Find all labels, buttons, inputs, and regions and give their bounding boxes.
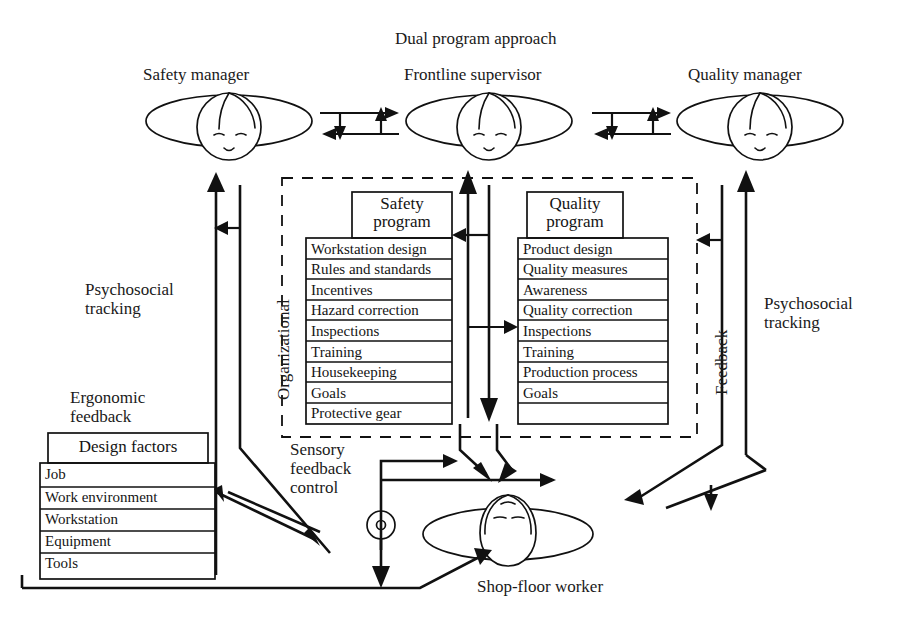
design-factors-item: Tools (42, 555, 215, 572)
label-organizational: Organizational (274, 299, 293, 400)
design-factors-item: Job (42, 466, 215, 483)
dual-program-approach-diagram: Dual program approach Safety manager Fro… (0, 0, 911, 629)
quality-program-item: Quality correction (520, 302, 668, 319)
quality-program-item: Training (520, 344, 668, 361)
safety-program-item: Housekeeping (308, 364, 452, 381)
person-frontline-supervisor (406, 93, 572, 160)
safety-program-item: Protective gear (308, 405, 452, 422)
label-feedback: Feedback (712, 330, 731, 395)
quality-program-item: Awareness (520, 282, 668, 299)
arrow-center-to-safety-program (452, 228, 489, 242)
safety-program-item: Incentives (308, 282, 452, 299)
label-sensory-feedback-control: Sensory feedback control (290, 440, 351, 497)
quality-program-item: Inspections (520, 323, 668, 340)
arrow-center-down-to-worker (480, 185, 498, 422)
safety-program-item: Workstation design (308, 241, 452, 258)
label-quality-manager: Quality manager (688, 65, 802, 84)
design-factors-header: Design factors (48, 438, 208, 456)
label-safety-manager: Safety manager (143, 65, 249, 84)
label-left-psychosocial-tracking: Psychosocial tracking (85, 280, 174, 318)
arrow-center-up-to-supervisor (459, 170, 477, 418)
label-shop-floor-worker: Shop-floor worker (477, 577, 603, 596)
design-factors-item: Work environment (42, 489, 215, 506)
page-title: Dual program approach (395, 29, 556, 48)
quality-program-item: Production process (520, 364, 668, 381)
safety-program-item: Training (308, 344, 452, 361)
safety-program-item: Hazard correction (308, 302, 452, 319)
label-right-psychosocial-tracking: Psychosocial tracking (764, 294, 853, 332)
quality-program-header: Quality program (527, 195, 623, 231)
design-factors-item: Equipment (42, 533, 215, 550)
safety-program-item: Goals (308, 385, 452, 402)
arrow-right-diagonal-lower (666, 470, 766, 511)
safety-program-item: Inspections (308, 323, 452, 340)
design-factors-item: Workstation (42, 511, 215, 528)
person-safety-manager (146, 93, 312, 160)
label-frontline-supervisor: Frontline supervisor (404, 65, 541, 84)
arrow-center-to-quality-program (468, 320, 518, 334)
arrow-right-psychosocial-up (737, 170, 766, 470)
quality-program-item: Product design (520, 241, 668, 258)
label-left-ergonomic-feedback: Ergonomic feedback (70, 388, 145, 426)
safety-program-header: Safety program (352, 195, 452, 231)
safety-program-item: Rules and standards (308, 261, 452, 278)
person-quality-manager (677, 93, 843, 160)
quality-program-item: Goals (520, 385, 668, 402)
funnel-center-to-worker (460, 424, 517, 483)
arrow-safety-manager-supervisor (320, 107, 399, 140)
quality-program-item: Quality measures (520, 261, 668, 278)
arrow-supervisor-quality-manager (592, 107, 671, 140)
person-shop-floor-worker (423, 495, 593, 566)
